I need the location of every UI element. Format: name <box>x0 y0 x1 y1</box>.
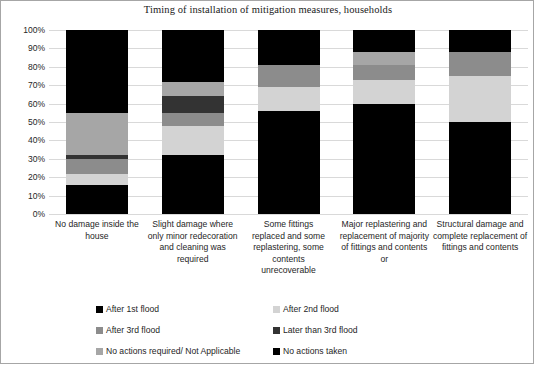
bar-segment[interactable] <box>258 87 320 111</box>
bar-segment[interactable] <box>353 80 415 104</box>
chart-title: Timing of installation of mitigation mea… <box>1 4 535 15</box>
legend-label: Later than 3rd flood <box>283 325 358 335</box>
legend-item[interactable]: No actions taken <box>273 346 347 356</box>
bar-segment[interactable] <box>162 30 224 82</box>
y-axis-labels: 100%90%80%70%60%50%40%30%20%10%0% <box>1 30 45 214</box>
bar-segment[interactable] <box>162 82 224 97</box>
bar-segment[interactable] <box>66 159 128 174</box>
legend-item[interactable]: After 2nd flood <box>273 304 339 314</box>
y-axis-tick-label: 90% <box>28 43 45 53</box>
bar-segment[interactable] <box>258 65 320 87</box>
bar-stack[interactable] <box>449 30 511 214</box>
x-axis-label: Some fittings replaced and some replaste… <box>247 219 331 277</box>
y-axis-tick-label: 10% <box>28 191 45 201</box>
y-axis-tick-label: 20% <box>28 172 45 182</box>
legend-item[interactable]: No actions required/ Not Applicable <box>96 346 240 356</box>
y-axis-tick-label: 30% <box>28 154 45 164</box>
bar-segment[interactable] <box>162 126 224 155</box>
bar-segment[interactable] <box>66 113 128 155</box>
chart-container: Timing of installation of mitigation mea… <box>0 0 534 364</box>
bar-segment[interactable] <box>258 30 320 65</box>
legend-swatch-icon <box>273 348 280 355</box>
x-axis-label: No damage inside the house <box>49 219 145 242</box>
bar-segment[interactable] <box>449 52 511 76</box>
bar-stack[interactable] <box>258 30 320 214</box>
y-axis-tick-label: 100% <box>23 25 45 35</box>
legend-item[interactable]: Later than 3rd flood <box>273 325 358 335</box>
y-axis-tick-label: 70% <box>28 80 45 90</box>
bar-segment[interactable] <box>162 96 224 113</box>
bar-segment[interactable] <box>66 185 128 214</box>
legend-item[interactable]: After 3rd flood <box>96 325 160 335</box>
bar-stack[interactable] <box>353 30 415 214</box>
bar-segment[interactable] <box>66 174 128 185</box>
bar-segment[interactable] <box>66 30 128 113</box>
bar-segment[interactable] <box>353 52 415 65</box>
legend-swatch-icon <box>273 306 280 313</box>
legend-item[interactable]: After 1st flood <box>96 304 159 314</box>
x-axis-label: Major replastering and replacement of ma… <box>336 219 432 265</box>
y-axis-tick-label: 80% <box>28 62 45 72</box>
legend-label: No actions required/ Not Applicable <box>106 346 240 356</box>
legend-swatch-icon <box>96 348 103 355</box>
bar-stack[interactable] <box>162 30 224 214</box>
bar-segment[interactable] <box>258 111 320 214</box>
bar-segment[interactable] <box>449 76 511 122</box>
bar-stack[interactable] <box>66 30 128 214</box>
chart-legend: After 1st floodAfter 2nd floodAfter 3rd … <box>1 304 535 360</box>
bar-segment[interactable] <box>353 65 415 80</box>
bar-segment[interactable] <box>162 113 224 126</box>
bar-segment[interactable] <box>353 30 415 52</box>
legend-swatch-icon <box>96 327 103 334</box>
plot-area <box>49 30 528 214</box>
legend-label: No actions taken <box>283 346 347 356</box>
bar-segment[interactable] <box>449 122 511 214</box>
legend-label: After 1st flood <box>106 304 159 314</box>
y-axis-tick-label: 50% <box>28 117 45 127</box>
y-axis-tick-label: 60% <box>28 99 45 109</box>
gridline <box>49 214 528 215</box>
bar-segment[interactable] <box>353 104 415 214</box>
y-axis-tick-label: 0% <box>33 209 45 219</box>
legend-label: After 2nd flood <box>283 304 339 314</box>
y-axis-tick-label: 40% <box>28 135 45 145</box>
x-axis-category-labels: No damage inside the houseSlight damage … <box>49 219 528 299</box>
x-axis-label: Slight damage where only minor redecorat… <box>145 219 241 265</box>
bar-segment[interactable] <box>162 155 224 214</box>
bar-segment[interactable] <box>449 30 511 52</box>
x-axis-label: Structural damage and complete replaceme… <box>432 219 528 254</box>
legend-swatch-icon <box>96 306 103 313</box>
legend-swatch-icon <box>273 327 280 334</box>
legend-label: After 3rd flood <box>106 325 160 335</box>
bar-segment[interactable] <box>66 155 128 159</box>
